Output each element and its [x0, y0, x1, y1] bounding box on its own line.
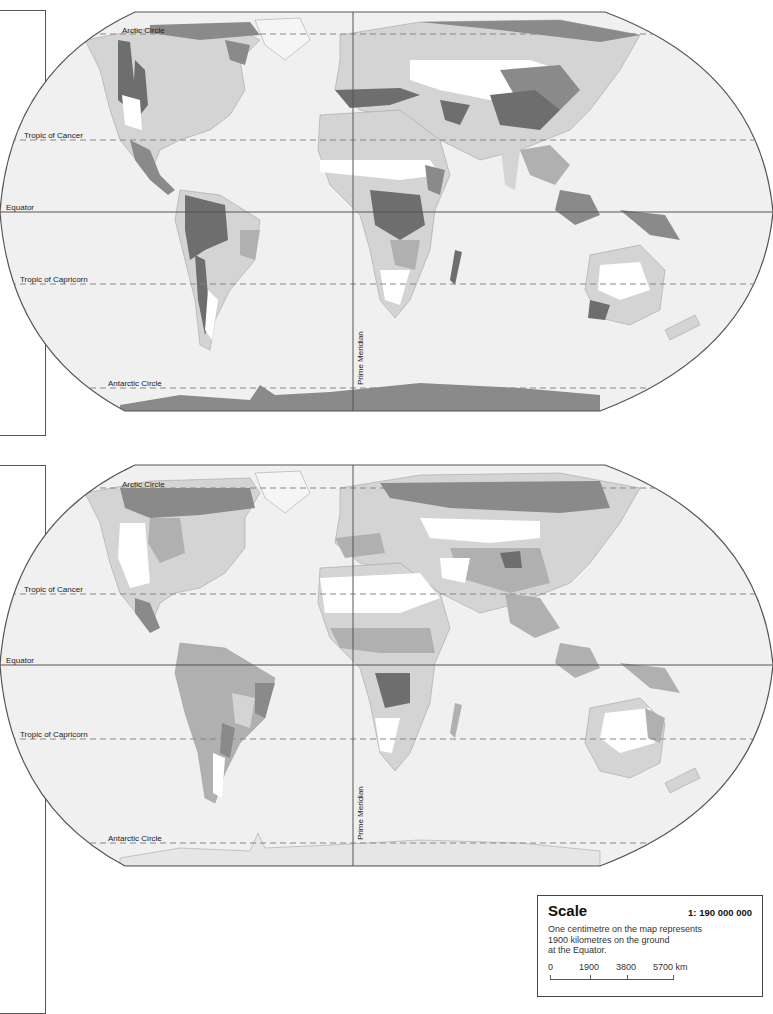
scale-bar-tick: [550, 975, 551, 980]
scale-box: Scale 1: 190 000 000 One centimetre on t…: [537, 895, 763, 997]
world-map-top: Arctic Circle Tropic of Cancer Equator T…: [0, 0, 773, 440]
scale-ratio: 1: 190 000 000: [688, 907, 752, 918]
scale-bar-tick: [590, 975, 591, 980]
scale-description-line: One centimetre on the map represents: [548, 924, 752, 935]
scale-bar-tick: [627, 975, 628, 980]
tropic-of-capricorn-label: Tropic of Capricorn: [20, 275, 88, 284]
arctic-circle-label: Arctic Circle: [122, 480, 165, 489]
antarctic-circle-label: Antarctic Circle: [108, 379, 162, 388]
scale-description-line: 1900 kilometres on the ground: [548, 935, 752, 946]
scale-bar-tick: [673, 975, 674, 980]
prime-meridian-label: Prime Meridian: [356, 786, 365, 840]
prime-meridian-label: Prime Meridian: [356, 331, 365, 385]
antarctic-circle-label: Antarctic Circle: [108, 834, 162, 843]
equator-label: Equator: [6, 656, 34, 665]
tropic-of-cancer-label: Tropic of Cancer: [24, 585, 83, 594]
scale-tick-label: 5700 km: [653, 962, 688, 972]
map-bottom-body: [0, 453, 773, 873]
scale-tick-label: 3800: [616, 962, 636, 972]
scale-description: One centimetre on the map represents 190…: [548, 924, 752, 956]
arctic-circle-label: Arctic Circle: [122, 26, 165, 35]
scale-bar: 0 1900 3800 5700 km: [548, 962, 752, 986]
tropic-of-cancer-label: Tropic of Cancer: [24, 131, 83, 140]
scale-description-line: at the Equator.: [548, 945, 752, 956]
scale-tick-label: 1900: [579, 962, 599, 972]
tropic-of-capricorn-label: Tropic of Capricorn: [20, 730, 88, 739]
scale-tick-label: 0: [548, 962, 553, 972]
world-map-bottom: Arctic Circle Tropic of Cancer Equator T…: [0, 453, 773, 873]
map-top-body: [0, 0, 773, 440]
equator-label: Equator: [6, 203, 34, 212]
scale-bar-line: [550, 979, 673, 980]
